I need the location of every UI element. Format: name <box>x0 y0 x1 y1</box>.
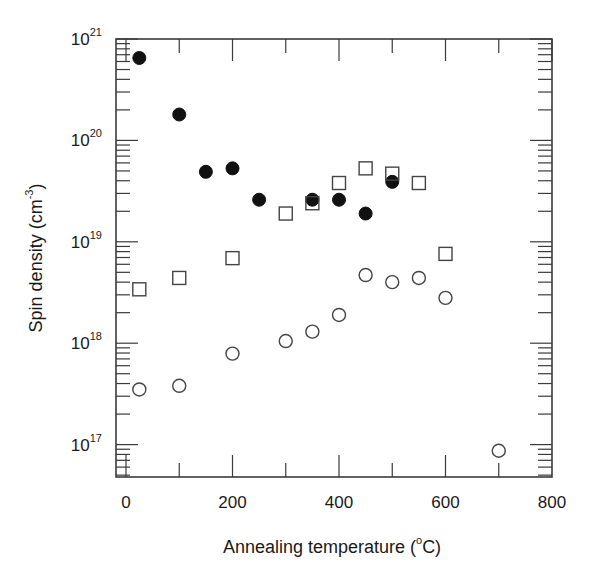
open-circle-marker <box>133 383 146 396</box>
x-tick-label: 200 <box>218 493 246 512</box>
open-square-marker <box>279 207 292 220</box>
y-tick-label: 1021 <box>71 26 102 49</box>
open-circle-marker <box>359 269 372 282</box>
open-circle-marker <box>226 347 239 360</box>
y-tick-label: 1020 <box>71 127 102 150</box>
plot-border <box>116 39 552 477</box>
x-tick-label: 600 <box>431 493 459 512</box>
filled-circle-marker <box>199 165 212 178</box>
open-circle-marker <box>439 291 452 304</box>
x-tick-label: 0 <box>121 493 130 512</box>
open-circle-marker <box>173 379 186 392</box>
filled-circle-marker <box>253 193 266 206</box>
open-square-marker <box>226 252 239 265</box>
x-axis-ticks: 0200400600800 <box>121 39 566 512</box>
open-circle-marker <box>279 335 292 348</box>
plot-frame <box>116 39 552 477</box>
y-tick-label: 1017 <box>71 432 102 455</box>
open-circle-marker <box>492 444 505 457</box>
open-square-marker <box>133 283 146 296</box>
filled-circle-marker <box>133 51 146 64</box>
y-tick-label: 1019 <box>71 229 102 252</box>
open-circle-marker <box>333 308 346 321</box>
open-circle-marker <box>386 276 399 289</box>
y-tick-label: 1018 <box>71 330 102 353</box>
x-tick-label: 800 <box>538 493 566 512</box>
x-tick-label: 400 <box>325 493 353 512</box>
filled-circle-marker <box>386 175 399 188</box>
filled-circle-marker <box>173 108 186 121</box>
open-square-marker <box>439 247 452 260</box>
filled-circle-marker <box>359 207 372 220</box>
open-square-marker <box>412 177 425 190</box>
open-circle-marker <box>306 325 319 338</box>
scatter-chart: 10171018101910201021 0200400600800 Annea… <box>0 0 590 583</box>
open-square-marker <box>333 177 346 190</box>
filled-circle-marker <box>306 193 319 206</box>
open-square-marker <box>173 271 186 284</box>
data-points <box>133 51 505 457</box>
y-axis-label: Spin density (cm-3) <box>23 184 46 333</box>
filled-circle-marker <box>226 162 239 175</box>
open-circle-marker <box>412 271 425 284</box>
y-axis-ticks: 10171018101910201021 <box>71 26 552 475</box>
open-square-marker <box>359 162 372 175</box>
filled-circle-marker <box>333 193 346 206</box>
x-axis-label: Annealing temperature (oC) <box>223 534 441 557</box>
